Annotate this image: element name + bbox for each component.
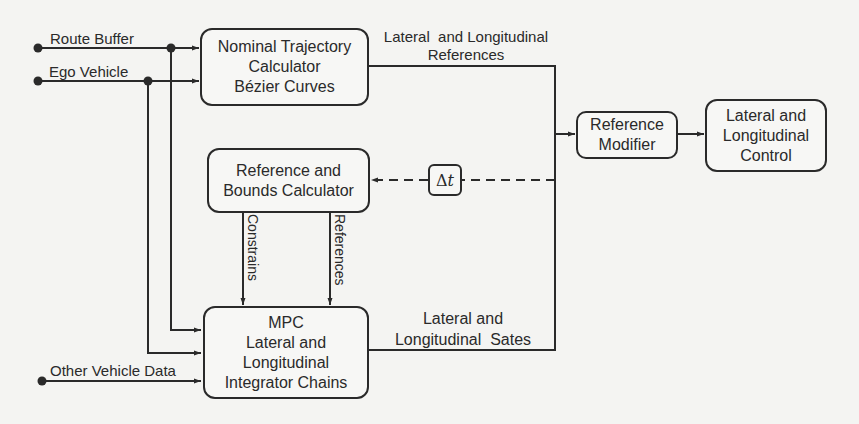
label-line: Lateral and bbox=[372, 308, 554, 329]
block-line: Integrator Chains bbox=[225, 373, 348, 393]
other-vehicle-source-dot bbox=[38, 377, 47, 386]
block-line: MPC bbox=[268, 313, 304, 333]
delay-block[interactable]: Δt bbox=[428, 164, 462, 196]
block-line: Lateral and bbox=[726, 106, 806, 126]
block-line: Nominal Trajectory bbox=[218, 37, 351, 57]
label-line: References bbox=[370, 46, 562, 64]
delta-symbol: Δ bbox=[436, 171, 448, 190]
time-var: t bbox=[448, 171, 454, 190]
block-line: Control bbox=[740, 146, 792, 166]
references-vertical-label: References bbox=[333, 214, 347, 286]
route-buffer-to-mpc bbox=[171, 48, 201, 330]
states-label: Lateral and Longitudinal Sates bbox=[372, 308, 554, 350]
block-line: Calculator bbox=[248, 57, 320, 77]
ego-source-dot bbox=[34, 77, 43, 86]
block-line: Bounds Calculator bbox=[223, 181, 354, 201]
route-buffer-source-dot bbox=[34, 44, 43, 53]
block-line: Lateral and bbox=[246, 333, 326, 353]
constrains-label: Constrains bbox=[246, 214, 260, 281]
label-line: Lateral and Longitudinal bbox=[370, 28, 562, 46]
references-top-label: Lateral and Longitudinal References bbox=[370, 28, 562, 64]
reference-bounds-block[interactable]: Reference and Bounds Calculator bbox=[207, 148, 370, 213]
block-line: Bézier Curves bbox=[234, 77, 334, 97]
block-line: Reference bbox=[590, 115, 664, 135]
ego-to-mpc bbox=[148, 81, 201, 353]
block-line: Reference and bbox=[236, 161, 341, 181]
ego-vehicle-label: Ego Vehicle bbox=[49, 63, 128, 80]
block-line: Longitudinal bbox=[243, 353, 329, 373]
nominal-trajectory-block[interactable]: Nominal Trajectory Calculator Bézier Cur… bbox=[200, 28, 369, 106]
reference-modifier-block[interactable]: Reference Modifier bbox=[576, 111, 678, 159]
label-line: Longitudinal Sates bbox=[372, 329, 554, 350]
block-line: Longitudinal bbox=[723, 126, 809, 146]
mpc-block[interactable]: MPC Lateral and Longitudinal Integrator … bbox=[203, 306, 369, 399]
route-buffer-label: Route Buffer bbox=[50, 30, 134, 47]
other-vehicle-label: Other Vehicle Data bbox=[50, 362, 176, 379]
lateral-longitudinal-control-block[interactable]: Lateral and Longitudinal Control bbox=[705, 99, 827, 172]
ego-junction bbox=[144, 77, 153, 86]
route-buffer-junction bbox=[167, 44, 176, 53]
block-line: Modifier bbox=[599, 135, 656, 155]
